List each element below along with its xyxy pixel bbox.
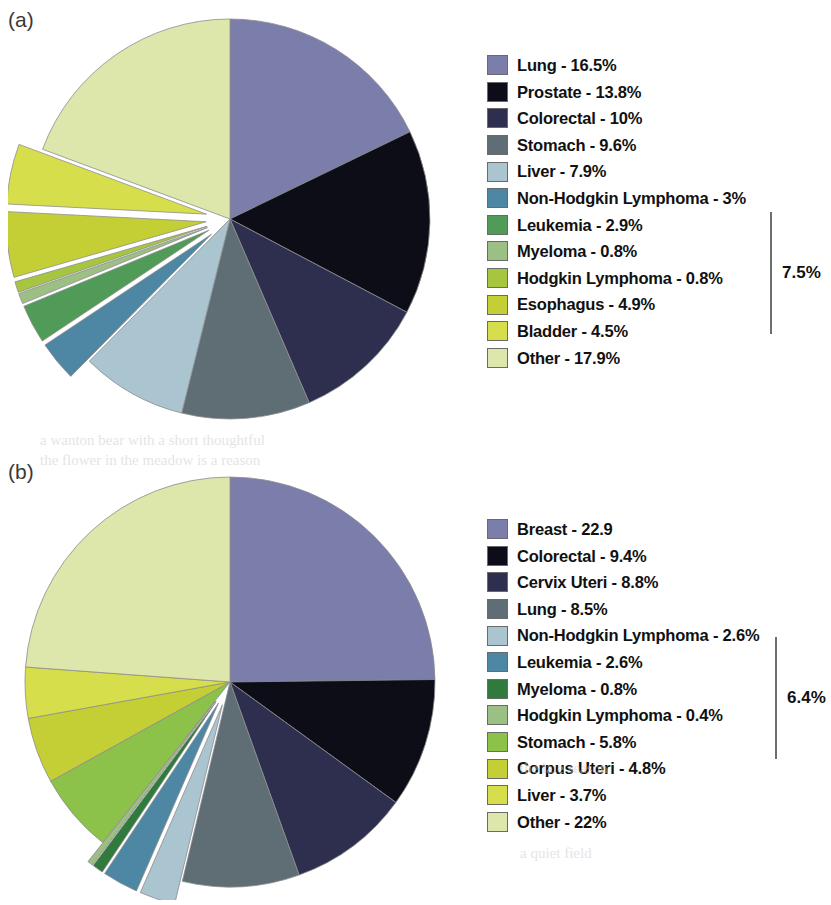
- legend-swatch-icon: [487, 295, 508, 315]
- legend-item[interactable]: Breast - 22.9: [487, 516, 759, 543]
- legend-item-label: Non-Hodgkin Lymphoma - 3%: [517, 190, 746, 207]
- legend-item-label: Leukemia - 2.9%: [517, 217, 642, 234]
- legend-item[interactable]: Non-Hodgkin Lymphoma - 3%: [487, 185, 746, 212]
- legend-item-label: Liver - 7.9%: [517, 163, 606, 180]
- legend-item-label: Myeloma - 0.8%: [517, 243, 637, 260]
- pie-chart-a: [8, 14, 478, 434]
- legend-item[interactable]: Myeloma - 0.8%: [487, 238, 746, 265]
- legend-item[interactable]: Esophagus - 4.9%: [487, 291, 746, 318]
- legend-item[interactable]: Myeloma - 0.8%: [487, 676, 759, 703]
- legend-swatch-icon: [487, 759, 508, 779]
- legend-item-label: Other - 22%: [517, 814, 607, 831]
- legend-swatch-icon: [487, 188, 508, 208]
- legend-item[interactable]: Lung - 8.5%: [487, 596, 759, 623]
- legend-item-label: Lung - 16.5%: [517, 57, 616, 74]
- legend-item-label: Breast - 22.9: [517, 521, 613, 538]
- legend-item-label: Colorectal - 10%: [517, 110, 642, 127]
- legend-item-label: Bladder - 4.5%: [517, 323, 628, 340]
- pie-chart-a-svg: [8, 14, 478, 434]
- legend-item[interactable]: Colorectal - 9.4%: [487, 543, 759, 570]
- legend-item[interactable]: Cervix Uteri - 8.8%: [487, 569, 759, 596]
- legend-item[interactable]: Non-Hodgkin Lymphoma - 2.6%: [487, 622, 759, 649]
- legend-swatch-icon: [487, 215, 508, 235]
- legend-swatch-icon: [487, 705, 508, 725]
- legend-item[interactable]: Bladder - 4.5%: [487, 318, 746, 345]
- legend-swatch-icon: [487, 268, 508, 288]
- legend-item[interactable]: Other - 17.9%: [487, 345, 746, 372]
- legend-item[interactable]: Lung - 16.5%: [487, 52, 746, 79]
- legend-item[interactable]: Colorectal - 10%: [487, 105, 746, 132]
- legend-swatch-icon: [487, 241, 508, 261]
- legend-item[interactable]: Stomach - 5.8%: [487, 729, 759, 756]
- legend-swatch-icon: [487, 732, 508, 752]
- legend-item-label: Stomach - 5.8%: [517, 734, 636, 751]
- pie-slice[interactable]: [26, 477, 230, 682]
- legend-swatch-icon: [487, 785, 508, 805]
- legend-item-label: Prostate - 13.8%: [517, 84, 641, 101]
- legend-swatch-icon: [487, 812, 508, 832]
- legend-swatch-icon: [487, 55, 508, 75]
- legend-item-label: Stomach - 9.6%: [517, 137, 636, 154]
- legend-swatch-icon: [487, 599, 508, 619]
- legend-swatch-icon: [487, 82, 508, 102]
- legend-item[interactable]: Liver - 3.7%: [487, 782, 759, 809]
- legend-swatch-icon: [487, 546, 508, 566]
- legend-item[interactable]: Leukemia - 2.9%: [487, 212, 746, 239]
- pie-chart-b-svg: [8, 470, 478, 900]
- legend-item-label: Non-Hodgkin Lymphoma - 2.6%: [517, 627, 759, 644]
- legend-swatch-icon: [487, 679, 508, 699]
- pie-slice[interactable]: [230, 477, 435, 682]
- legend-swatch-icon: [487, 135, 508, 155]
- legend-item-label: Hodgkin Lymphoma - 0.4%: [517, 707, 723, 724]
- legend-swatch-icon: [487, 162, 508, 182]
- legend-item-label: Hodgkin Lymphoma - 0.8%: [517, 270, 723, 287]
- figure-panel-a: (a) Lung - 16.5%Prostate - 13.8%Colorect…: [0, 0, 831, 440]
- legend-item-label: Liver - 3.7%: [517, 787, 606, 804]
- legend-swatch-icon: [487, 572, 508, 592]
- bracket-b: [775, 637, 777, 759]
- legend-item-label: Lung - 8.5%: [517, 601, 607, 618]
- legend-swatch-icon: [487, 108, 508, 128]
- legend-swatch-icon: [487, 348, 508, 368]
- legend-item-label: Esophagus - 4.9%: [517, 296, 655, 313]
- legend-item[interactable]: Hodgkin Lymphoma - 0.8%: [487, 265, 746, 292]
- legend-a: Lung - 16.5%Prostate - 13.8%Colorectal -…: [487, 52, 746, 371]
- pie-chart-b: [8, 470, 478, 900]
- legend-item[interactable]: Hodgkin Lymphoma - 0.4%: [487, 702, 759, 729]
- bracket-a-label: 7.5%: [782, 263, 821, 283]
- legend-item-label: Other - 17.9%: [517, 350, 620, 367]
- legend-item[interactable]: Stomach - 9.6%: [487, 132, 746, 159]
- legend-swatch-icon: [487, 652, 508, 672]
- legend-item[interactable]: Leukemia - 2.6%: [487, 649, 759, 676]
- legend-item-label: Cervix Uteri - 8.8%: [517, 574, 658, 591]
- legend-item[interactable]: Prostate - 13.8%: [487, 79, 746, 106]
- legend-item-label: Corpus Uteri - 4.8%: [517, 760, 665, 777]
- legend-item[interactable]: Other - 22%: [487, 809, 759, 836]
- legend-b: Breast - 22.9Colorectal - 9.4%Cervix Ute…: [487, 516, 759, 835]
- legend-swatch-icon: [487, 626, 508, 646]
- legend-swatch-icon: [487, 321, 508, 341]
- bracket-b-label: 6.4%: [787, 688, 826, 708]
- legend-item[interactable]: Corpus Uteri - 4.8%: [487, 755, 759, 782]
- legend-item-label: Colorectal - 9.4%: [517, 548, 647, 565]
- legend-item-label: Leukemia - 2.6%: [517, 654, 642, 671]
- legend-item-label: Myeloma - 0.8%: [517, 681, 637, 698]
- legend-item[interactable]: Liver - 7.9%: [487, 158, 746, 185]
- legend-swatch-icon: [487, 519, 508, 539]
- bracket-a: [770, 212, 772, 334]
